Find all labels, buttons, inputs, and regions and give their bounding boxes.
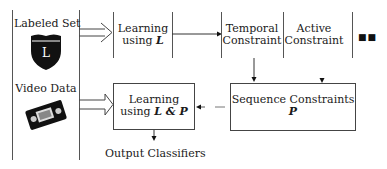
double-arrow-bottom [79, 92, 115, 118]
temporal-constraint-box[interactable]: Temporal Constraint [222, 23, 282, 47]
arrow-to-temporal [172, 30, 224, 38]
temporal-line2: Constraint [222, 35, 282, 47]
sequence-symbol-p: P [289, 105, 297, 118]
labeled-set-label: Labeled Set [14, 18, 78, 30]
ellipsis-icon: ■■ [358, 32, 377, 42]
active-border-right [352, 12, 353, 58]
shield-icon: L [29, 33, 63, 71]
left-panel-border-left [12, 10, 13, 160]
arrow-to-output [150, 130, 158, 142]
output-classifiers-label: Output Classifiers [105, 148, 205, 160]
shield-letter: L [29, 47, 63, 59]
learning-l-box[interactable]: Learning using L [115, 23, 171, 47]
sequence-constraints-box[interactable]: Sequence Constraints P [230, 83, 356, 131]
arrow-sequence-to-learning [195, 103, 225, 111]
active-line2: Constraint [284, 35, 344, 47]
learning-lp-line2: using L & P [114, 106, 194, 118]
learning-l-line2: using L [115, 35, 171, 47]
learning-l-border-left [113, 12, 114, 58]
active-constraint-box[interactable]: Active Constraint [284, 23, 344, 47]
arrow-temporal-to-sequence [250, 58, 258, 84]
learning-lp-box[interactable]: Learning using L & P [113, 83, 195, 130]
videotape-icon [24, 99, 68, 131]
double-arrow-top [79, 22, 115, 44]
video-data-label: Video Data [14, 83, 78, 95]
